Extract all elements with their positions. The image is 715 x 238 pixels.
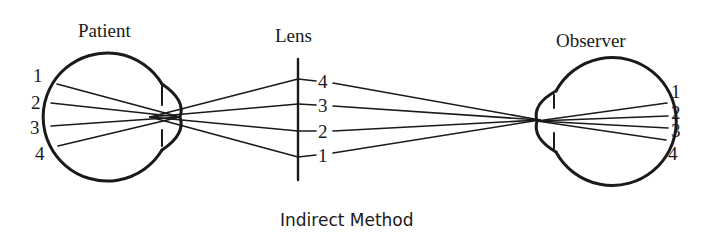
ray-2-to-lens	[150, 117, 298, 131]
patient-eyeball-outline	[43, 53, 162, 181]
patient-label-4: 4	[35, 143, 45, 164]
ray-4-to-observer	[333, 83, 540, 120]
observer-label-3: 3	[671, 120, 681, 141]
lens-label-1: 1	[318, 145, 328, 166]
patient-label-2: 2	[31, 92, 41, 113]
ray-1-to-lens	[150, 117, 298, 157]
observer-label-1: 1	[671, 81, 681, 102]
lens-tick-3	[298, 104, 316, 105]
patient-eye	[43, 53, 181, 181]
lens-to-observer-rays	[333, 83, 540, 153]
lens-image-labels: 4 3 2 1	[318, 71, 328, 166]
lens-label-3: 3	[318, 95, 328, 116]
patient-title: Patient	[78, 20, 131, 41]
observer-eyeball-outline	[556, 57, 676, 185]
patient-label-3: 3	[30, 117, 40, 138]
lens-title: Lens	[275, 25, 312, 46]
diagram-caption: Indirect Method	[280, 210, 414, 230]
lens-label-4: 4	[318, 71, 328, 92]
lens-tick-1	[298, 155, 316, 157]
indirect-ophthalmoscopy-diagram: Patient Lens Observer 1 2 3 4	[0, 0, 715, 238]
observer-title: Observer	[556, 30, 626, 51]
lens-label-2: 2	[318, 121, 328, 142]
ray-3-to-observer	[333, 106, 540, 120]
observer-internal-rays	[537, 103, 668, 140]
patient-label-1: 1	[33, 65, 43, 86]
condensing-lens	[298, 59, 316, 180]
lens-tick-4	[298, 79, 316, 81]
observer-label-4: 4	[668, 143, 678, 164]
